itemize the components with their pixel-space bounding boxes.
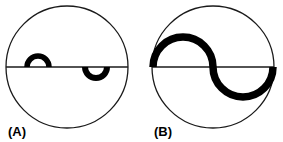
panel-b-label: (B) [154, 124, 172, 139]
panel-a-lower-right-arc [85, 67, 107, 78]
figure-svg-canvas: (A) (B) [0, 0, 283, 142]
panel-a: (A) [6, 6, 128, 139]
panel-b-lower-right-arc [213, 67, 273, 97]
panel-a-label: (A) [8, 124, 26, 139]
figure-container: (A) (B) [0, 0, 283, 142]
panel-b: (B) [152, 6, 274, 139]
panel-b-upper-left-arc [153, 37, 213, 67]
panel-a-upper-left-arc [27, 56, 49, 67]
